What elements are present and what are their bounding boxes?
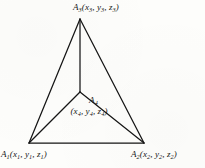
vertex-a3-x-sub: 3	[89, 6, 92, 13]
vertex-a1-name: A	[1, 149, 7, 159]
vertex-a4-z-sub: 4	[101, 110, 104, 117]
vertex-a1-z-sub: 1	[41, 153, 44, 160]
vertex-a3-y-sub: 3	[101, 6, 104, 13]
vertex-label-a4: A4 (x4, y4, z4)	[61, 95, 117, 116]
vertex-a1-x-sub: 1	[17, 153, 20, 160]
vertex-label-a2: A2(x2, y2, z2)	[131, 149, 177, 159]
edge-a3-a2	[80, 19, 144, 143]
vertex-label-a3: A3(x3, y3, z3)	[73, 2, 119, 12]
vertex-a3-name-sub: 3	[79, 6, 82, 13]
vertex-a1-y-sub: 1	[29, 153, 32, 160]
vertex-a2-y-sub: 2	[159, 153, 162, 160]
vertex-a1-name-sub: 1	[7, 153, 10, 160]
vertex-a2-z-sub: 2	[171, 153, 174, 160]
vertex-a2-name-sub: 2	[137, 153, 140, 160]
vertex-a2-name: A	[131, 149, 137, 159]
figure-drawing	[0, 0, 205, 168]
vertex-label-a1: A1(x1, y1, z1)	[1, 149, 47, 159]
vertex-a2-close-paren: )	[174, 149, 177, 159]
vertex-a3-close-paren: )	[116, 2, 119, 12]
vertex-a4-name: A	[89, 95, 95, 105]
edge-a1-a3	[29, 19, 80, 143]
vertex-a4-x-sub: 4	[78, 110, 81, 117]
vertex-a4-name-line: A4	[61, 95, 117, 105]
vertex-a4-close-paren: )	[104, 106, 107, 116]
tetrahedron-figure: A3(x3, y3, z3) A1(x1, y1, z1) A2(x2, y2,…	[0, 0, 205, 168]
vertex-a3-name: A	[73, 2, 79, 12]
vertex-a4-y-sub: 4	[90, 110, 93, 117]
vertex-a2-x-sub: 2	[147, 153, 150, 160]
vertex-a4-coords-line: (x4, y4, z4)	[61, 106, 117, 116]
vertex-a1-close-paren: )	[44, 149, 47, 159]
vertex-a4-name-sub: 4	[95, 99, 98, 106]
vertex-a3-z-sub: 3	[113, 6, 116, 13]
